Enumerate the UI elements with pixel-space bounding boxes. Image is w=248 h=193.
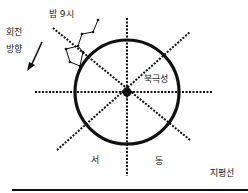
north-star-icon bbox=[120, 85, 134, 99]
east-label: 동 bbox=[155, 156, 163, 166]
west-label: 서 bbox=[91, 155, 99, 165]
rotation-label-line1: 회전 bbox=[6, 27, 22, 37]
diagram-canvas bbox=[0, 0, 248, 193]
north-star-label: 북극성 bbox=[144, 74, 168, 84]
rotation-direction-arrow-icon bbox=[27, 42, 42, 71]
horizon-label: 지평선 bbox=[210, 168, 234, 178]
night-9pm-label: 밤 9시 bbox=[49, 9, 74, 19]
celestial-diagram: 밤 9시 회전 방향 북극성 서 동 지평선 bbox=[0, 0, 248, 193]
rotation-label-line2: 방향 bbox=[6, 44, 22, 54]
